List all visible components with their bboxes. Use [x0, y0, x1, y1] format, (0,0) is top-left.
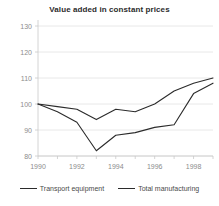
y-axis-tick-label: 90	[24, 127, 32, 134]
series-line	[38, 78, 213, 120]
chart-legend: Transport equipment Total manufacturing	[0, 185, 219, 192]
y-axis-tick-label: 110	[21, 75, 32, 82]
legend-line-icon	[118, 188, 135, 189]
x-axis-tick-label: 1992	[69, 163, 85, 170]
legend-item-label: Transport equipment	[40, 185, 104, 192]
y-axis-tick-label: 80	[24, 153, 32, 160]
grid-lines	[35, 20, 213, 156]
series-line	[38, 83, 213, 151]
legend-item-total-manufacturing[interactable]: Total manufacturing	[118, 185, 199, 192]
x-axis-tick-label: 1994	[108, 163, 124, 170]
y-axis-tick-label: 100	[20, 101, 32, 108]
data-series	[38, 78, 213, 151]
chart-container: Value added in constant prices 130120110…	[0, 0, 219, 206]
x-axis-tick-label: 1996	[147, 163, 163, 170]
legend-item-transport-equipment[interactable]: Transport equipment	[20, 185, 104, 192]
y-axis-tick-label: 130	[20, 23, 32, 30]
chart-plot-area: 1301201101009080 19901992199419961998	[0, 0, 219, 206]
x-axis-tick-label: 1998	[186, 163, 202, 170]
x-axis-tick-labels: 19901992199419961998	[30, 163, 201, 170]
x-axis-tick-label: 1990	[30, 163, 46, 170]
x-axis	[38, 156, 213, 159]
legend-line-icon	[20, 188, 37, 189]
y-axis-tick-label: 120	[20, 49, 32, 56]
legend-item-label: Total manufacturing	[138, 185, 199, 192]
y-axis-tick-labels: 1301201101009080	[20, 23, 32, 160]
